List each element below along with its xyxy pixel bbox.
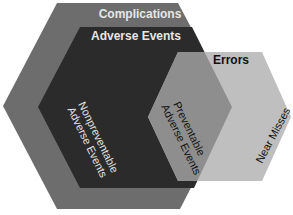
errors-label: Errors	[213, 53, 249, 67]
hexagon-venn-diagram: Complications Adverse Events Errors Nonp…	[0, 0, 293, 215]
adverse-events-label: Adverse Events	[91, 29, 181, 43]
complications-label: Complications	[99, 7, 182, 21]
